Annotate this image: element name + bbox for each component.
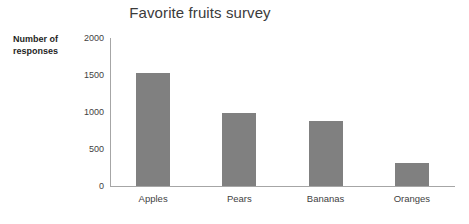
y-axis-tick-label: 500	[70, 144, 104, 154]
x-axis-tick-label: Pears	[196, 192, 282, 205]
x-axis-tick-label: Apples	[110, 192, 196, 205]
y-axis-tick-label: 2000	[70, 33, 104, 43]
x-axis-line	[110, 186, 455, 187]
bar	[309, 121, 343, 186]
bar	[136, 73, 170, 186]
y-axis-tick-label: 1000	[70, 107, 104, 117]
x-axis-tick-labels: ApplesPearsBananasOranges	[110, 192, 455, 212]
bar	[222, 113, 256, 186]
chart-title: Favorite fruits survey	[105, 3, 295, 22]
bar	[395, 163, 429, 186]
x-axis-tick-label: Bananas	[283, 192, 369, 205]
x-axis-tick-label: Oranges	[369, 192, 455, 205]
y-axis-title-line-1: Number of	[13, 34, 58, 44]
y-axis-tick-label: 0	[70, 181, 104, 191]
y-axis-tick-labels: 0500100015002000	[68, 38, 104, 186]
y-axis-tick-label: 1500	[70, 70, 104, 80]
bars-layer	[110, 38, 455, 186]
bar-chart: Favorite fruits survey Number of respons…	[0, 0, 469, 224]
